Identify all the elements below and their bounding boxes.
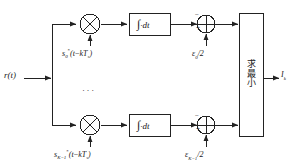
reference-signal-label-top: s0*(t−kTs) [62, 49, 92, 60]
reference-signal-label-bottom: sK−1*(t−kTs) [54, 150, 91, 161]
output-label: Ik [281, 71, 286, 82]
branch-ellipsis: ··· [82, 85, 96, 95]
figure-canvas: r(t) s0*(t−kTs) sK−1*(t−kTs) ∫·dt ∫·dt −… [0, 0, 291, 167]
decision-block-text: 求 最 小 [239, 13, 263, 136]
bias-label-bottom: εK−1/2 [185, 151, 204, 162]
decision-char-3: 小 [247, 79, 256, 89]
integrator-label-top: ∫·dt [137, 18, 150, 30]
adder-sign-minus-bottom: − [195, 113, 199, 120]
adder-sign-plus-top: + [196, 25, 200, 32]
bias-label-top: ε0/2 [192, 50, 204, 61]
integrator-label-bottom: ∫·dt [137, 119, 150, 131]
adder-sign-plus-bottom: + [196, 126, 200, 133]
input-label: r(t) [4, 71, 16, 80]
adder-sign-minus-top: − [195, 12, 199, 19]
